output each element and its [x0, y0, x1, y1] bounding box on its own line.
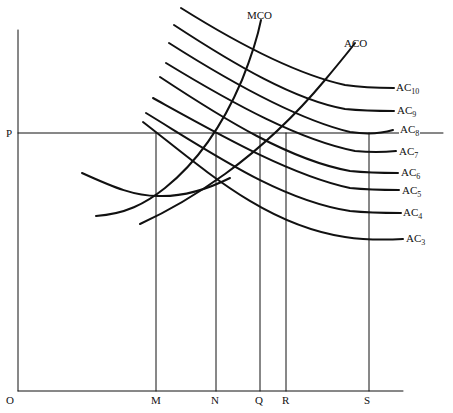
ac6-label: AC6: [401, 167, 420, 181]
ac3-sub: 3: [421, 238, 425, 247]
ac5-label: AC5: [402, 185, 421, 199]
ac7-sub: 7: [414, 151, 418, 160]
ac4-sub: 4: [418, 212, 422, 221]
ac4-base: AC: [403, 206, 418, 218]
ac10-base: AC: [396, 81, 411, 93]
x-label-r: R: [282, 395, 289, 406]
ac10-label: AC10: [396, 82, 419, 96]
ac10-sub: 10: [411, 87, 419, 96]
diagram-canvas: [0, 0, 453, 413]
ac8-label: AC8: [399, 124, 420, 138]
price-label: P: [6, 128, 12, 139]
ac4-curve: [146, 113, 401, 213]
ac7-base: AC: [399, 145, 414, 157]
ac6-sub: 6: [416, 172, 420, 181]
ac9-base: AC: [397, 104, 412, 116]
ac3-label: AC3: [406, 233, 425, 247]
ac9-sub: 9: [412, 110, 416, 119]
ac8-sub: 8: [415, 129, 419, 138]
ac5-base: AC: [402, 184, 417, 196]
ac4-label: AC4: [403, 207, 422, 221]
ac3-curve: [143, 122, 403, 240]
aco-label: ACO: [344, 38, 367, 49]
origin-label: O: [6, 395, 14, 406]
cost-curves-diagram: O P M N Q R S MCO ACO AC10 AC9 AC8 AC7 A…: [0, 0, 453, 413]
ac5-curve: [153, 98, 399, 190]
x-label-s: S: [364, 395, 370, 406]
ac7-label: AC7: [399, 146, 418, 160]
x-label-q: Q: [255, 395, 263, 406]
ac6-base: AC: [401, 166, 416, 178]
ac8-base: AC: [400, 123, 415, 135]
x-label-m: M: [151, 395, 161, 406]
mco-label: MCO: [247, 10, 272, 21]
x-label-n: N: [211, 395, 219, 406]
ac3-base: AC: [406, 232, 421, 244]
ac9-label: AC9: [397, 105, 416, 119]
ac5-sub: 5: [417, 190, 421, 199]
ac7-curve: [166, 63, 396, 152]
